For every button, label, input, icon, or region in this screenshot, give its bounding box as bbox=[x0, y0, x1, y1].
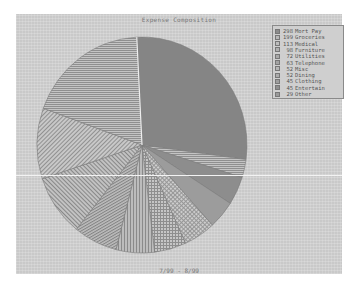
legend-label: Misc bbox=[295, 66, 308, 72]
legend-label: Clothing bbox=[295, 78, 322, 84]
legend-swatch bbox=[275, 29, 280, 34]
legend-value: 52 bbox=[281, 72, 293, 78]
legend-label: Medical bbox=[295, 41, 318, 47]
legend-swatch bbox=[275, 66, 280, 71]
legend-label: Furniture bbox=[295, 47, 325, 53]
legend-item-clothing: 45Clothing bbox=[275, 78, 322, 84]
legend-label: Telephone bbox=[295, 60, 325, 66]
legend-item-furniture: 98Furniture bbox=[275, 47, 325, 53]
legend-swatch bbox=[275, 35, 280, 40]
legend-label: Mort Pay bbox=[295, 28, 322, 34]
legend-item-entertain: 45Entertain bbox=[275, 85, 325, 91]
legend-value: 72 bbox=[281, 53, 293, 59]
legend-value: 113 bbox=[281, 41, 293, 47]
legend-swatch bbox=[275, 54, 280, 59]
legend-item-dining: 52Dining bbox=[275, 72, 315, 78]
legend-label: Entertain bbox=[295, 85, 325, 91]
pie-slices bbox=[37, 37, 247, 253]
legend-item-groceries: 199Groceries bbox=[275, 34, 325, 40]
legend-swatch bbox=[275, 60, 280, 65]
legend-swatch bbox=[275, 73, 280, 78]
legend-value: 199 bbox=[281, 34, 293, 40]
chart-date-range: 7/99 - 8/99 bbox=[16, 267, 342, 274]
legend-item-medical: 113Medical bbox=[275, 41, 318, 47]
legend-swatch bbox=[275, 79, 280, 84]
scan-artifact-line bbox=[16, 175, 342, 176]
legend-item-mort-pay: 298Mort Pay bbox=[275, 28, 322, 34]
legend-label: Other bbox=[295, 91, 312, 97]
legend-item-utilities: 72Utilities bbox=[275, 53, 325, 59]
legend-swatch bbox=[275, 92, 280, 97]
legend-label: Dining bbox=[295, 72, 315, 78]
legend-swatch bbox=[275, 85, 280, 90]
legend-value: 63 bbox=[281, 60, 293, 66]
legend-value: 29 bbox=[281, 91, 293, 97]
legend-value: 98 bbox=[281, 47, 293, 53]
legend-swatch bbox=[275, 47, 280, 52]
legend-item-other: 29Other bbox=[275, 91, 312, 97]
pie-slice-mort-pay bbox=[137, 37, 247, 160]
legend-swatch bbox=[275, 41, 280, 46]
legend-value: 45 bbox=[281, 85, 293, 91]
chart-legend: 298Mort Pay199Groceries113Medical98Furni… bbox=[272, 25, 344, 99]
legend-label: Groceries bbox=[295, 34, 325, 40]
chart-frame: Expense Composition 298Mort Pay199Grocer… bbox=[16, 14, 342, 274]
legend-value: 298 bbox=[281, 28, 293, 34]
legend-value: 52 bbox=[281, 66, 293, 72]
legend-item-telephone: 63Telephone bbox=[275, 60, 325, 66]
legend-label: Utilities bbox=[295, 53, 325, 59]
legend-value: 45 bbox=[281, 78, 293, 84]
legend-item-misc: 52Misc bbox=[275, 66, 308, 72]
